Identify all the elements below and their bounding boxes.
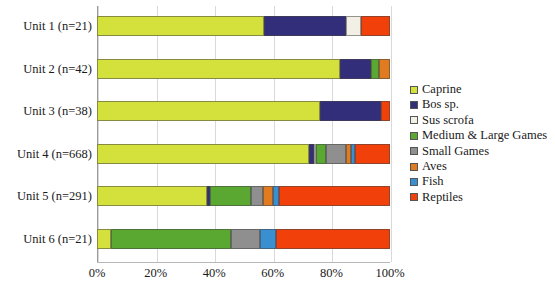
bar-segment (276, 229, 390, 249)
bar-segment (355, 144, 390, 164)
legend-item[interactable]: Aves (410, 159, 550, 174)
chart-legend: CaprineBos sp.Sus scrofaMedium & Large G… (410, 82, 550, 205)
bar-row: Unit 6 (n=21) (0, 219, 555, 259)
legend-swatch-icon (410, 86, 418, 94)
legend-swatch-icon (410, 193, 418, 201)
bar-segment (231, 229, 260, 249)
legend-item[interactable]: Small Games (410, 144, 550, 159)
legend-swatch-icon (410, 101, 418, 109)
legend-label: Reptiles (422, 190, 463, 205)
bar-segment (260, 229, 275, 249)
category-label: Unit 2 (n=42) (0, 49, 92, 89)
legend-label: Caprine (422, 82, 462, 97)
legend-label: Fish (422, 174, 444, 189)
legend-label: Medium & Large Games (422, 128, 547, 143)
x-tick-label: 60% (261, 266, 284, 281)
legend-swatch-icon (410, 132, 418, 140)
bar-segment (379, 59, 390, 79)
category-label: Unit 6 (n=21) (0, 219, 92, 259)
bar-segment (97, 229, 111, 249)
legend-item[interactable]: Sus scrofa (410, 113, 550, 128)
legend-swatch-icon (410, 116, 418, 124)
bar-segment (263, 186, 273, 206)
bar-segment (264, 16, 346, 36)
category-label: Unit 4 (n=668) (0, 134, 92, 174)
bar-segment (97, 186, 207, 206)
bar-segment (371, 59, 379, 79)
bar-segment (326, 144, 347, 164)
category-label: Unit 3 (n=38) (0, 91, 92, 131)
stacked-bar (97, 16, 390, 36)
bar-segment (97, 16, 264, 36)
bar-segment (111, 229, 231, 249)
bar-segment (97, 144, 309, 164)
x-axis-line (97, 262, 390, 263)
bar-segment (279, 186, 390, 206)
category-label: Unit 1 (n=21) (0, 6, 92, 46)
legend-item[interactable]: Reptiles (410, 190, 550, 205)
legend-swatch-icon (410, 147, 418, 155)
legend-label: Small Games (422, 144, 489, 159)
bar-segment (320, 101, 382, 121)
category-label: Unit 5 (n=291) (0, 176, 92, 216)
legend-label: Sus scrofa (422, 113, 474, 128)
stacked-bar-chart: Unit 1 (n=21)Unit 2 (n=42)Unit 3 (n=38)U… (0, 0, 555, 300)
stacked-bar (97, 101, 390, 121)
stacked-bar (97, 144, 390, 164)
stacked-bar (97, 59, 390, 79)
bar-segment (340, 59, 371, 79)
bar-segment (346, 16, 361, 36)
legend-swatch-icon (410, 178, 418, 186)
x-tick-label: 40% (203, 266, 226, 281)
bar-segment (316, 144, 325, 164)
stacked-bar (97, 229, 390, 249)
x-tick-label: 20% (144, 266, 167, 281)
legend-label: Bos sp. (422, 97, 459, 112)
legend-item[interactable]: Bos sp. (410, 97, 550, 112)
x-tick-label: 80% (320, 266, 343, 281)
bar-segment (97, 101, 320, 121)
x-axis-ticks: 0%20%40%60%80%100% (97, 266, 390, 286)
x-tick-label: 0% (89, 266, 106, 281)
bar-segment (251, 186, 263, 206)
legend-item[interactable]: Medium & Large Games (410, 128, 550, 143)
legend-item[interactable]: Fish (410, 174, 550, 189)
bar-segment (381, 101, 390, 121)
stacked-bar (97, 186, 390, 206)
bar-row: Unit 1 (n=21) (0, 6, 555, 46)
legend-swatch-icon (410, 163, 418, 171)
bar-segment (361, 16, 390, 36)
bar-segment (97, 59, 340, 79)
x-tick-label: 100% (375, 266, 404, 281)
legend-item[interactable]: Caprine (410, 82, 550, 97)
legend-label: Aves (422, 159, 447, 174)
bar-segment (210, 186, 251, 206)
